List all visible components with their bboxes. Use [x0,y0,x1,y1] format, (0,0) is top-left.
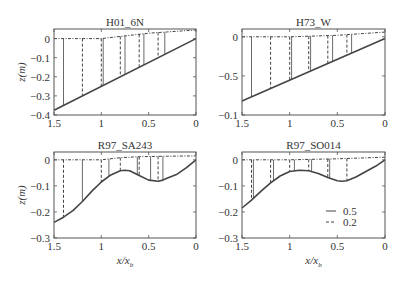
x-tick-label: 0.5 [142,117,156,129]
plot-frame [242,29,385,115]
panel-h73-w: 1.510.500−0.5−0.1H73_W [218,16,388,129]
x-tick-label: 0.5 [330,240,344,252]
y-tick-label: 0 [45,154,51,166]
x-tick-label: 1 [287,117,293,129]
y-axis-label: z(m) [15,62,28,83]
panel-r97-so014: 1.510.500−0.1−0.2−0.3R97_SO014x/xb0.50.2 [218,139,388,269]
panel-title: H01_6N [106,16,144,28]
legend-label: 0.2 [343,216,357,228]
panel-title: R97_SO014 [286,139,341,151]
y-tick-label: 0 [233,154,239,166]
y-tick-label: −0.3 [30,232,50,244]
y-tick-label: −0.3 [218,232,238,244]
y-tick-label: −0.1 [30,180,50,192]
y-tick-label: −0.1 [218,109,238,121]
plot-frame [54,152,196,238]
y-tick-label: −0.2 [30,206,50,218]
x-tick-label: 0 [382,117,388,129]
y-tick-label: −0.1 [218,180,238,192]
y-tick-label: 0 [233,31,239,43]
x-axis-label: x/xb [116,254,134,269]
y-tick-label: 0 [45,33,51,45]
panel-h01-6n: 1.510.500−0.1−0.2−0.3−0.4H01_6Nz(m) [15,16,199,129]
y-tick-label: −0.1 [30,52,50,64]
y-tick-label: −0.5 [218,70,238,82]
y-tick-label: −0.2 [30,71,50,83]
figure: 1.510.500−0.1−0.2−0.3−0.4H01_6Nz(m) 1.51… [0,0,403,286]
legend: 0.50.2 [326,205,357,228]
water-surface-line [242,32,385,37]
bed-profile-line [242,38,385,101]
x-tick-label: 0 [382,240,388,252]
x-tick-label: 0.5 [142,240,156,252]
bed-profile-line [242,160,385,208]
panel-title: R97_SA243 [98,139,153,151]
panel-r97-sa243: 1.510.500−0.1−0.2−0.3R97_SA243z(m)x/xb [15,139,199,269]
water-surface-line [54,156,196,160]
x-tick-label: 1 [99,240,105,252]
x-tick-label: 0.5 [330,117,344,129]
y-axis-label: z(m) [15,185,28,206]
y-tick-label: −0.2 [218,206,238,218]
x-tick-label: 0 [193,240,199,252]
x-tick-label: 1 [287,240,293,252]
panel-title: H73_W [296,16,331,28]
x-tick-label: 1 [99,117,105,129]
water-surface-line [242,157,385,160]
y-tick-label: −0.4 [30,109,50,121]
bed-profile-line [54,160,196,223]
x-axis-label: x/xb [304,254,322,269]
x-tick-label: 0 [193,117,199,129]
plot-frame [242,152,385,238]
y-tick-label: −0.3 [30,90,50,102]
